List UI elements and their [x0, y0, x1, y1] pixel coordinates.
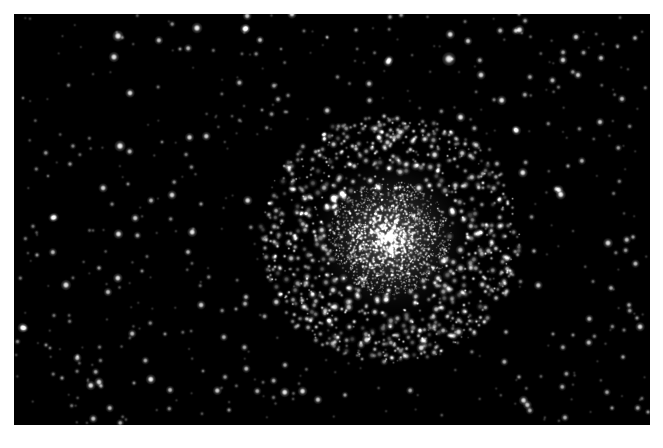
night-sky-background [14, 14, 650, 425]
photo-white-frame [14, 14, 650, 425]
globular-cluster-starfield [14, 14, 650, 425]
screenshot-root: globular-star-cluster [0, 0, 663, 448]
